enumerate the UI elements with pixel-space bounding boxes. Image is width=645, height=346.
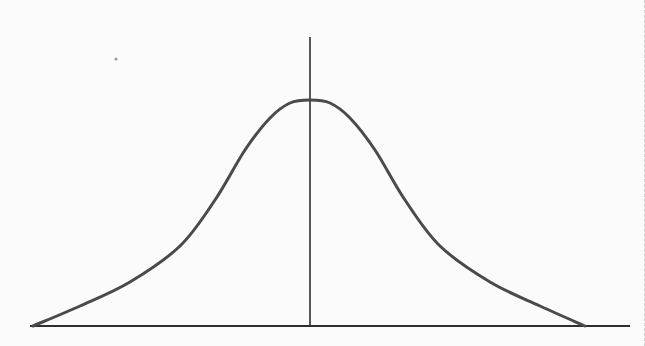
bell-curve (33, 100, 585, 326)
stray-dot (115, 58, 118, 61)
bell-curve-diagram (0, 0, 645, 346)
